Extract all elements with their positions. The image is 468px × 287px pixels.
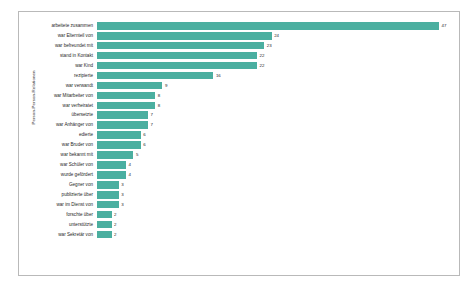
bar-row: war Elternteil von24 bbox=[19, 31, 455, 41]
bar-value-label: 24 bbox=[272, 32, 279, 40]
bar-row: rezipierte16 bbox=[19, 71, 455, 81]
bar bbox=[97, 102, 155, 110]
bar-value-label: 16 bbox=[213, 72, 220, 80]
bar bbox=[97, 201, 119, 209]
bar-category-label: publizierte über bbox=[19, 190, 97, 200]
bar-category-label: war verheiratet bbox=[19, 101, 97, 111]
bar bbox=[97, 121, 148, 129]
bar-row: war verwandt9 bbox=[19, 81, 455, 91]
bar bbox=[97, 211, 112, 219]
bar-row: war im Dienst von3 bbox=[19, 200, 455, 210]
bar bbox=[97, 191, 119, 199]
bar-value-label: 7 bbox=[148, 111, 153, 119]
bar-row: war befreundet mit23 bbox=[19, 41, 455, 51]
bar-category-label: war bekannt mit bbox=[19, 150, 97, 160]
bar-row: edierte6 bbox=[19, 130, 455, 140]
bar-track: 7 bbox=[97, 111, 455, 119]
bar-chart-figure: Person-Person-Relationen arbeitete zusam… bbox=[0, 0, 468, 287]
bar-rows-container: arbeitete zusammen47war Elternteil von24… bbox=[19, 12, 461, 275]
bar-row: übersetzte7 bbox=[19, 110, 455, 120]
plot-frame: Person-Person-Relationen arbeitete zusam… bbox=[18, 11, 460, 276]
bar-track: 3 bbox=[97, 191, 455, 199]
bar bbox=[97, 62, 257, 70]
bar-value-label: 5 bbox=[133, 151, 138, 159]
bar-row: unterstützte2 bbox=[19, 220, 455, 230]
bar bbox=[97, 231, 112, 239]
bar bbox=[97, 161, 126, 169]
bar-value-label: 2 bbox=[112, 211, 117, 219]
bar-track: 4 bbox=[97, 161, 455, 169]
bar-track: 2 bbox=[97, 231, 455, 239]
bar-category-label: forschte über bbox=[19, 210, 97, 220]
bar-value-label: 6 bbox=[141, 141, 146, 149]
bar-category-label: arbeitete zusammen bbox=[19, 21, 97, 31]
bar-row: war verheiratet8 bbox=[19, 101, 455, 111]
bar-value-label: 23 bbox=[264, 42, 271, 50]
bar-category-label: war Kind bbox=[19, 61, 97, 71]
bar-track: 4 bbox=[97, 171, 455, 179]
bar bbox=[97, 131, 141, 139]
bar-row: war bekannt mit5 bbox=[19, 150, 455, 160]
bar-track: 6 bbox=[97, 131, 455, 139]
bar-value-label: 8 bbox=[155, 92, 160, 100]
bar-value-label: 4 bbox=[126, 161, 131, 169]
bar-track: 22 bbox=[97, 52, 455, 60]
bar-row: forschte über2 bbox=[19, 210, 455, 220]
bar-category-label: war Schüler von bbox=[19, 160, 97, 170]
bar-track: 2 bbox=[97, 211, 455, 219]
bar-row: war Kind22 bbox=[19, 61, 455, 71]
bar-category-label: war Anhänger von bbox=[19, 120, 97, 130]
bar-row: war Anhänger von7 bbox=[19, 120, 455, 130]
bar-track: 6 bbox=[97, 141, 455, 149]
bar-row: wurde gefördert4 bbox=[19, 170, 455, 180]
bar-value-label: 22 bbox=[257, 52, 264, 60]
bar-value-label: 7 bbox=[148, 121, 153, 129]
bar-row: stand in Kontakt22 bbox=[19, 51, 455, 61]
bar-category-label: wurde gefördert bbox=[19, 170, 97, 180]
bar-track: 16 bbox=[97, 72, 455, 80]
bar bbox=[97, 82, 162, 90]
bar-row: war Mitarbeiter von8 bbox=[19, 91, 455, 101]
bar bbox=[97, 171, 126, 179]
bar-value-label: 3 bbox=[119, 181, 124, 189]
bar bbox=[97, 111, 148, 119]
bar-track: 3 bbox=[97, 181, 455, 189]
bar-value-label: 2 bbox=[112, 231, 117, 239]
bar-value-label: 2 bbox=[112, 221, 117, 229]
bar-value-label: 22 bbox=[257, 62, 264, 70]
bar-track: 24 bbox=[97, 32, 455, 40]
bar-track: 3 bbox=[97, 201, 455, 209]
bar-track: 7 bbox=[97, 121, 455, 129]
bar-value-label: 3 bbox=[119, 191, 124, 199]
bar bbox=[97, 52, 257, 60]
bar-value-label: 47 bbox=[439, 22, 446, 30]
bar-value-label: 4 bbox=[126, 171, 131, 179]
bar-category-label: übersetzte bbox=[19, 110, 97, 120]
bar-value-label: 9 bbox=[162, 82, 167, 90]
bar-row: arbeitete zusammen47 bbox=[19, 21, 455, 31]
bar-track: 47 bbox=[97, 22, 455, 30]
bar bbox=[97, 92, 155, 100]
bar bbox=[97, 151, 133, 159]
bar bbox=[97, 141, 141, 149]
bar bbox=[97, 181, 119, 189]
bar-category-label: war verwandt bbox=[19, 81, 97, 91]
bar-track: 23 bbox=[97, 42, 455, 50]
bar-category-label: war Sekretär von bbox=[19, 230, 97, 240]
bar-category-label: rezipierte bbox=[19, 71, 97, 81]
bar bbox=[97, 42, 264, 50]
bar-row: publizierte über3 bbox=[19, 190, 455, 200]
bar-track: 8 bbox=[97, 92, 455, 100]
bar-track: 2 bbox=[97, 221, 455, 229]
bar-row: war Bruder von6 bbox=[19, 140, 455, 150]
bar-value-label: 3 bbox=[119, 201, 124, 209]
bar-category-label: Gegner von bbox=[19, 180, 97, 190]
bar-category-label: war Mitarbeiter von bbox=[19, 91, 97, 101]
bar-category-label: edierte bbox=[19, 130, 97, 140]
bar bbox=[97, 32, 272, 40]
bar-row: war Schüler von4 bbox=[19, 160, 455, 170]
bar bbox=[97, 22, 439, 30]
bar-category-label: war befreundet mit bbox=[19, 41, 97, 51]
bar-track: 9 bbox=[97, 82, 455, 90]
bar-category-label: war Bruder von bbox=[19, 140, 97, 150]
